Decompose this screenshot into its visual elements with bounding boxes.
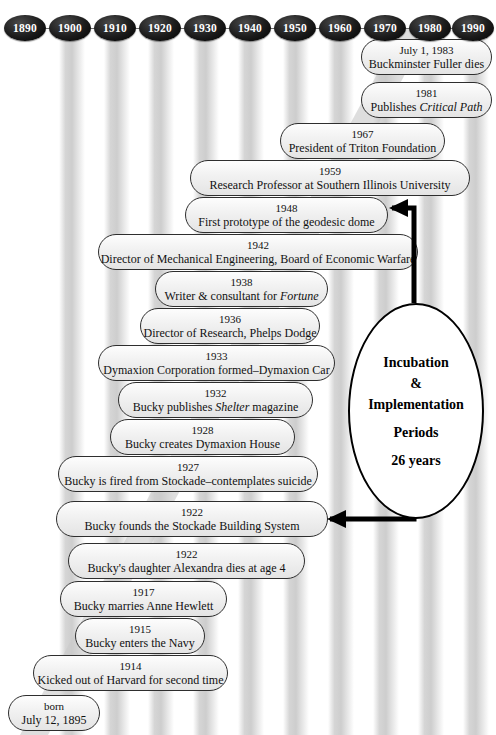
decade-marker-1920: 1920 bbox=[139, 15, 181, 41]
callout-line-1: Incubation bbox=[383, 352, 448, 373]
decade-marker-1890: 1890 bbox=[4, 15, 46, 41]
decade-marker-1980: 1980 bbox=[409, 15, 451, 41]
decade-marker-1950: 1950 bbox=[274, 15, 316, 41]
incubation-callout: Incubation & Implementation Periods 26 y… bbox=[348, 303, 484, 519]
callout-line-4: Periods bbox=[393, 422, 438, 443]
decade-marker-1990: 1990 bbox=[452, 15, 494, 41]
arrowhead-lower bbox=[327, 510, 346, 528]
decade-marker-1970: 1970 bbox=[364, 15, 406, 41]
callout-line-3: Implementation bbox=[368, 394, 464, 415]
decade-marker-1960: 1960 bbox=[319, 15, 361, 41]
arrowhead-upper bbox=[389, 199, 408, 217]
decade-marker-1900: 1900 bbox=[49, 15, 91, 41]
callout-line-5: 26 years bbox=[391, 450, 440, 471]
decade-marker-1930: 1930 bbox=[184, 15, 226, 41]
decade-marker-1940: 1940 bbox=[229, 15, 271, 41]
decade-marker-1910: 1910 bbox=[94, 15, 136, 41]
timeline-diagram: 1890 1900 1910 1920 1930 1940 1950 1960 … bbox=[0, 0, 496, 735]
callout-line-2: & bbox=[410, 373, 422, 394]
